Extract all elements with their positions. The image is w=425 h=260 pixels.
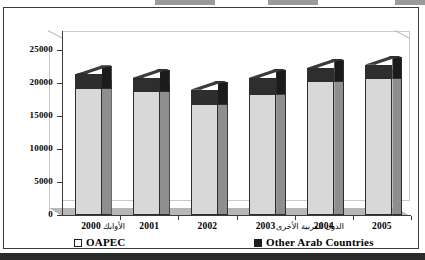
bar-segment-other-2003: [249, 78, 276, 94]
document-frame: 0500010000150002000025000 20002001200220…: [3, 7, 419, 249]
bar-segment-oapec-2002: [191, 104, 218, 215]
bar-side-other-2003: [276, 70, 286, 95]
bar-segment-other-2001: [133, 78, 160, 91]
bar-side-oapec-2000: [102, 80, 112, 215]
x-axis-tick: [353, 216, 354, 220]
bar-side-other-2001: [160, 70, 170, 92]
bar-2005: [365, 56, 392, 215]
bar-segment-oapec-2005: [365, 78, 392, 215]
bar-side-other-2004: [334, 60, 344, 82]
legend-other-label-english: Other Arab Countries: [266, 236, 374, 248]
plot-back-wall: [62, 31, 410, 201]
chart-page: 0500010000150002000025000 20002001200220…: [0, 0, 425, 260]
y-axis-tick-label: 0: [10, 210, 53, 219]
bar-side-oapec-2004: [334, 73, 344, 215]
bar-segment-oapec-2003: [249, 94, 276, 215]
legend-oapec-label-english: OAPEC: [86, 236, 126, 248]
y-axis-tick-label: 10000: [10, 144, 53, 153]
y-axis-tick: [57, 182, 62, 183]
bar-segment-oapec-2004: [307, 81, 334, 215]
bar-segment-other-2002: [191, 90, 218, 105]
bar-side-other-2002: [218, 82, 228, 106]
x-axis-tick: [411, 216, 412, 220]
legend-oapec-entry: OAPEC: [74, 236, 194, 248]
plot-side-wall: [49, 38, 63, 215]
stacked-bar-chart: 0500010000150002000025000 20002001200220…: [10, 18, 420, 223]
bar-segment-other-2004: [307, 68, 334, 81]
bar-side-oapec-2003: [276, 86, 286, 215]
bar-2004: [307, 59, 334, 215]
chart-legend: الأوابك OAPEC الدول العربية الأخرى Other…: [10, 222, 420, 256]
bar-2003: [249, 69, 276, 215]
y-axis-line: [62, 31, 63, 216]
legend-other-entry: Other Arab Countries: [254, 236, 425, 248]
bar-side-other-2005: [392, 57, 402, 79]
y-axis-tick-label: 20000: [10, 78, 53, 87]
bar-side-oapec-2001: [160, 83, 170, 215]
bar-side-oapec-2005: [392, 70, 402, 215]
y-axis-tick: [57, 215, 62, 216]
y-axis-tick: [57, 83, 62, 84]
legend-oapec-label-arabic: الأوابك: [74, 222, 154, 232]
y-axis-tick: [57, 149, 62, 150]
legend-other-label-arabic: الدول العربية الأخرى: [250, 222, 370, 232]
scan-artifact-top: [0, 0, 425, 6]
bar-side-other-2000: [102, 66, 112, 89]
y-axis-tick: [57, 50, 62, 51]
x-axis-tick: [295, 216, 296, 220]
y-axis-tick: [57, 116, 62, 117]
legend-swatch-oapec: [74, 239, 82, 247]
x-axis-tick: [120, 216, 121, 220]
scan-artifact-bottom: [0, 253, 425, 260]
x-axis-tick: [237, 216, 238, 220]
y-axis-tick-label: 5000: [10, 177, 53, 186]
bar-side-oapec-2002: [218, 96, 228, 215]
bar-segment-other-2005: [365, 65, 392, 78]
x-axis-tick: [178, 216, 179, 220]
y-axis-tick-label: 25000: [10, 45, 53, 54]
bar-segment-oapec-2000: [75, 88, 102, 215]
bar-segment-other-2000: [75, 74, 102, 88]
bar-segment-oapec-2001: [133, 91, 160, 215]
bar-2000: [75, 65, 102, 215]
bar-2001: [133, 69, 160, 215]
legend-swatch-other: [254, 239, 262, 247]
y-axis-tick-label: 15000: [10, 111, 53, 120]
bar-2002: [191, 81, 218, 215]
